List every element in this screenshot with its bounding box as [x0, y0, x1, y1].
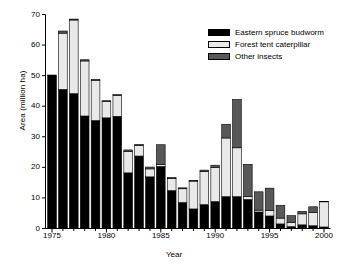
bar-segment [48, 75, 57, 228]
bar-segment [102, 118, 111, 229]
legend-item-forest-tent-caterpillar: Forest tent caterpillar [208, 39, 324, 50]
legend-label-other-insects: Other insects [235, 53, 282, 61]
bar-segment [59, 89, 68, 228]
bar-segment [287, 216, 296, 223]
bar-segment [200, 205, 209, 229]
legend-label-eastern-spruce-budworm: Eastern spruce budworm [235, 29, 324, 37]
legend-item-eastern-spruce-budworm: Eastern spruce budworm [208, 27, 324, 38]
x-tick-label: 1995 [250, 232, 290, 240]
bar-segment [135, 156, 144, 228]
bar-segment [320, 202, 329, 227]
bar-segment [298, 214, 307, 225]
bar-segment [178, 203, 187, 229]
bar-segment [124, 151, 133, 172]
bar-segment [265, 210, 274, 216]
bar-segment [222, 124, 231, 138]
bar-segment [91, 80, 100, 81]
bar-segment [178, 188, 187, 189]
bar-segment [146, 177, 155, 229]
bar-segment [276, 224, 285, 229]
bar-segment [59, 33, 68, 89]
bar-segment [80, 116, 89, 229]
bar-segment [200, 170, 209, 171]
bar-segment [80, 60, 89, 61]
bar-segment [265, 188, 274, 210]
y-tick-label: 70 [16, 11, 40, 19]
bar-segment [113, 96, 122, 117]
bar-segment [156, 145, 165, 165]
bar-segment [80, 61, 89, 116]
bar-segment [276, 205, 285, 218]
x-tick-label: 1975 [32, 232, 72, 240]
bar-segment [178, 189, 187, 203]
bar-segment [276, 218, 285, 224]
bar-segment [167, 179, 176, 191]
y-tick-label: 40 [16, 102, 40, 110]
y-tick-label: 60 [16, 41, 40, 49]
bar-segment [243, 164, 252, 196]
y-tick-label: 50 [16, 72, 40, 80]
bar-segment [102, 101, 111, 102]
bar-segment [124, 150, 133, 152]
bar-segment [233, 197, 242, 229]
bar-segment [254, 212, 263, 229]
x-tick-label: 1980 [86, 232, 126, 240]
bar-segment [222, 197, 231, 229]
bar-segment [69, 94, 78, 229]
x-tick-label: 1990 [195, 232, 235, 240]
bar-segment [287, 222, 296, 226]
bar-segment [189, 181, 198, 182]
bar-segment [102, 102, 111, 118]
bar-segment [211, 202, 220, 229]
bar-segment [156, 166, 165, 228]
bar-segment [167, 191, 176, 229]
bar-segment [146, 167, 155, 169]
chart-legend: Eastern spruce budworm Forest tent cater… [208, 27, 324, 63]
bar-segment [69, 19, 78, 20]
bar-segment [200, 171, 209, 204]
legend-swatch-eastern-spruce-budworm [208, 29, 230, 36]
legend-item-other-insects: Other insects [208, 51, 324, 62]
bar-segment [135, 146, 144, 156]
x-tick-label: 1985 [141, 232, 181, 240]
legend-label-forest-tent-caterpillar: Forest tent caterpillar [235, 41, 310, 49]
bar-segment [320, 201, 329, 202]
bar-segment [243, 199, 252, 228]
bar-segment [69, 20, 78, 94]
y-tick-label: 10 [16, 194, 40, 202]
bar-segment [113, 116, 122, 228]
bar-segment [59, 31, 68, 33]
bar-segment [233, 148, 242, 197]
bar-segment [167, 177, 176, 178]
bar-segment [189, 209, 198, 229]
bar-segment [265, 216, 274, 229]
bar-segment [211, 165, 220, 167]
legend-swatch-forest-tent-caterpillar [208, 41, 230, 48]
bar-segment [222, 138, 231, 197]
bar-segment [135, 144, 144, 145]
legend-swatch-other-insects [208, 53, 230, 60]
bar-segment [309, 212, 318, 225]
y-tick-label: 20 [16, 163, 40, 171]
bar-segment [91, 121, 100, 229]
bar-segment [189, 181, 198, 209]
bar-segment [113, 95, 122, 96]
bar-segment [211, 167, 220, 201]
chart-figure: Area (million ha) Year 010203040506070 1… [0, 0, 348, 267]
bar-segment [309, 207, 318, 213]
bar-segment [146, 169, 155, 177]
x-tick-label: 2000 [304, 232, 344, 240]
bar-segment [298, 225, 307, 229]
bar-segment [91, 80, 100, 120]
bar-segment [243, 197, 252, 200]
bar-segment [254, 192, 263, 210]
bar-segment [233, 99, 242, 147]
y-tick-label: 30 [16, 133, 40, 141]
bar-segment [124, 173, 133, 229]
bar-segment [298, 211, 307, 213]
